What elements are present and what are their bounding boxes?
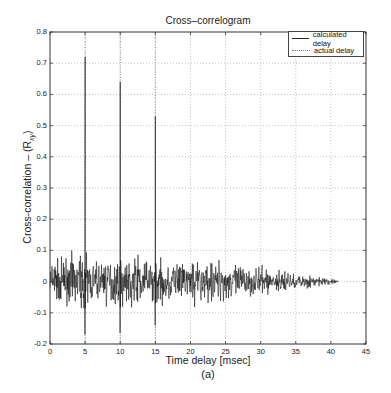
x-tick-label: 40 [323,347,339,356]
chart-title: Cross–correlogram [50,15,366,26]
figure-caption: (a) [50,368,366,380]
x-tick-label: 10 [112,347,128,356]
legend-label: actual delay [314,46,354,55]
legend-item-calculated-delay: calculated delay [289,33,363,44]
y-tick-label: 0.5 [18,121,47,130]
y-tick-label: -0.2 [18,339,47,348]
x-tick-label: 45 [358,347,374,356]
x-tick-label: 30 [253,347,269,356]
x-tick-label: 25 [218,347,234,356]
y-tick-label: 0.3 [18,183,47,192]
legend-item-actual-delay: actual delay [289,45,363,56]
x-axis-label: Time delay [msec] [50,354,366,366]
y-tick-label: 0.6 [18,89,47,98]
calculated-delay-line [50,57,338,335]
y-tick-label: 0 [18,277,47,286]
chart-canvas [0,0,391,393]
x-tick-label: 15 [147,347,163,356]
solid-line-icon [292,38,309,39]
y-tick-label: 0.4 [18,152,47,161]
x-tick-label: 5 [77,347,93,356]
y-tick-label: 0.8 [18,27,47,36]
y-tick-label: 0.2 [18,214,47,223]
dotted-line-icon [292,50,310,51]
x-tick-label: 20 [182,347,198,356]
y-tick-label: 0.7 [18,58,47,67]
y-tick-label: 0.1 [18,245,47,254]
legend: calculated delay actual delay [288,31,364,57]
x-tick-label: 0 [42,347,58,356]
x-tick-label: 35 [288,347,304,356]
y-tick-label: -0.1 [18,308,47,317]
legend-label: calculated delay [313,30,363,48]
